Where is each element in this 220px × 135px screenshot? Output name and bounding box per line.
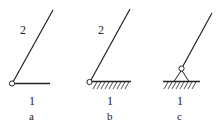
revolute-joint-icon [9, 81, 14, 86]
panel-a-sublabel: a [29, 111, 34, 122]
link-1-label-c: 1 [177, 95, 183, 107]
revolute-joint-icon [87, 79, 92, 84]
link-1-label-a: 1 [29, 95, 35, 107]
link-bar [183, 13, 212, 66]
figure-caption-faded [60, 126, 170, 132]
panel-a [9, 10, 53, 86]
link-2-label-b: 2 [98, 24, 104, 36]
panel-c [163, 13, 212, 89]
link-2-bar [13, 10, 53, 82]
panel-c-sublabel: c [177, 111, 182, 122]
link-1-label-b: 1 [107, 95, 113, 107]
panel-b [87, 9, 131, 89]
revolute-joint-icon [179, 66, 184, 71]
panel-b-sublabel: b [107, 111, 113, 122]
link-2-label-a: 2 [20, 24, 26, 36]
ground-hatching-icon [164, 82, 196, 89]
ground-hatching-icon [93, 82, 129, 89]
link-2-bar [91, 9, 130, 80]
support-triangle [174, 70, 189, 82]
